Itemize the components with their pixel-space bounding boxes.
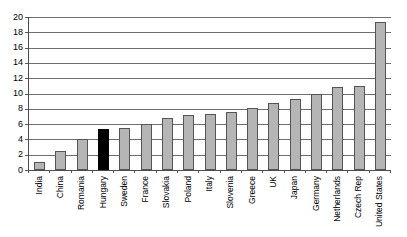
x-tick-label: UK bbox=[268, 176, 277, 188]
y-tick-label: 2 bbox=[18, 150, 23, 159]
x-tick-label: United States bbox=[375, 176, 384, 227]
y-tick-label: 6 bbox=[18, 120, 23, 129]
bar-highlighted bbox=[98, 129, 109, 170]
x-label-slot: Slovenia bbox=[220, 174, 241, 237]
bar bbox=[141, 124, 152, 170]
bar bbox=[77, 139, 88, 170]
x-label-slot: Hungary bbox=[92, 174, 113, 237]
x-label-slot: Italy bbox=[198, 174, 219, 237]
x-tick-label: India bbox=[34, 176, 43, 194]
x-tick-label: Poland bbox=[183, 176, 192, 202]
x-label-slot: Sweden bbox=[113, 174, 134, 237]
x-tick-mark bbox=[198, 170, 199, 173]
bar bbox=[119, 128, 130, 170]
bar-slot bbox=[93, 17, 114, 170]
x-label-slot: Slovakia bbox=[156, 174, 177, 237]
y-axis: 02468101214161820 bbox=[0, 0, 28, 180]
x-tick-label: France bbox=[141, 176, 150, 202]
x-label-slot: Greece bbox=[241, 174, 262, 237]
bar-slot bbox=[242, 17, 263, 170]
bar bbox=[290, 99, 301, 170]
bar-slot bbox=[370, 17, 391, 170]
x-tick-label: Netherlands bbox=[332, 176, 341, 222]
bars-container bbox=[29, 17, 391, 170]
bar-slot bbox=[114, 17, 135, 170]
x-tick-mark bbox=[284, 170, 285, 173]
x-tick-mark bbox=[156, 170, 157, 173]
bar-chart: 02468101214161820 IndiaChinaRomaniaHunga… bbox=[0, 0, 407, 237]
x-tick-mark bbox=[262, 170, 263, 173]
bar-slot bbox=[29, 17, 50, 170]
bar bbox=[247, 108, 258, 170]
bar bbox=[354, 86, 365, 170]
x-tick-mark bbox=[390, 170, 391, 173]
x-tick-mark bbox=[326, 170, 327, 173]
bar-slot bbox=[348, 17, 369, 170]
x-tick-mark bbox=[369, 170, 370, 173]
bar bbox=[375, 22, 386, 170]
x-label-slot: Czech Rep bbox=[347, 174, 368, 237]
bar-slot bbox=[157, 17, 178, 170]
x-label-slot: Poland bbox=[177, 174, 198, 237]
x-tick-label: Japan bbox=[290, 176, 299, 199]
x-tick-mark bbox=[220, 170, 221, 173]
x-label-slot: Netherlands bbox=[326, 174, 347, 237]
y-tick-label: 18 bbox=[13, 28, 23, 37]
x-label-slot: France bbox=[134, 174, 155, 237]
bar bbox=[34, 162, 45, 170]
y-tick-label: 8 bbox=[18, 104, 23, 113]
y-tick-label: 14 bbox=[13, 58, 23, 67]
x-tick-mark bbox=[134, 170, 135, 173]
bar bbox=[311, 94, 322, 171]
bar-slot bbox=[135, 17, 156, 170]
x-tick-mark bbox=[241, 170, 242, 173]
x-tick-label: Romania bbox=[77, 176, 86, 210]
bar-slot bbox=[221, 17, 242, 170]
x-tick-label: Slovenia bbox=[226, 176, 235, 209]
y-tick-label: 10 bbox=[13, 89, 23, 98]
x-tick-label: Greece bbox=[247, 176, 256, 204]
y-tick-label: 12 bbox=[13, 74, 23, 83]
x-tick-mark bbox=[28, 170, 29, 173]
y-tick-label: 16 bbox=[13, 43, 23, 52]
x-label-slot: India bbox=[28, 174, 49, 237]
x-label-slot: United States bbox=[369, 174, 390, 237]
bar-slot bbox=[199, 17, 220, 170]
plot-area bbox=[28, 17, 391, 171]
x-tick-mark bbox=[177, 170, 178, 173]
bar-slot bbox=[50, 17, 71, 170]
bar bbox=[162, 118, 173, 170]
x-tick-label: Czech Rep bbox=[354, 176, 363, 218]
x-tick-label: Italy bbox=[205, 176, 214, 192]
x-tick-mark bbox=[92, 170, 93, 173]
x-label-slot: Japan bbox=[284, 174, 305, 237]
y-tick-label: 0 bbox=[18, 166, 23, 175]
bar bbox=[205, 114, 216, 170]
bar-slot bbox=[306, 17, 327, 170]
x-tick-label: Sweden bbox=[119, 176, 128, 207]
x-tick-label: Germany bbox=[311, 176, 320, 211]
bar-slot bbox=[263, 17, 284, 170]
bar bbox=[332, 87, 343, 170]
x-tick-label: Hungary bbox=[98, 176, 107, 208]
y-tick-label: 20 bbox=[13, 13, 23, 22]
bar-slot bbox=[285, 17, 306, 170]
y-tick-label: 4 bbox=[18, 135, 23, 144]
x-label-slot: Romania bbox=[71, 174, 92, 237]
bar bbox=[226, 112, 237, 170]
x-label-slot: Germany bbox=[305, 174, 326, 237]
x-tick-mark bbox=[305, 170, 306, 173]
x-tick-mark bbox=[347, 170, 348, 173]
x-tick-mark bbox=[49, 170, 50, 173]
bar bbox=[55, 151, 66, 170]
bar bbox=[268, 103, 279, 170]
bar-slot bbox=[178, 17, 199, 170]
bar-slot bbox=[72, 17, 93, 170]
x-tick-label: Slovakia bbox=[162, 176, 171, 208]
x-tick-label: China bbox=[55, 176, 64, 198]
x-tick-mark bbox=[71, 170, 72, 173]
x-label-slot: China bbox=[49, 174, 70, 237]
bar-slot bbox=[327, 17, 348, 170]
x-tick-mark bbox=[113, 170, 114, 173]
x-axis: IndiaChinaRomaniaHungarySwedenFranceSlov… bbox=[28, 174, 390, 237]
